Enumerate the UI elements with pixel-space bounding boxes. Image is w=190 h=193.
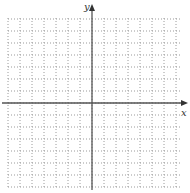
axes: x y <box>2 1 188 190</box>
coordinate-grid: x y <box>0 0 190 193</box>
x-axis-label: x <box>181 107 187 118</box>
y-axis-label: y <box>83 1 90 12</box>
y-axis-arrow-icon <box>89 4 95 11</box>
x-axis-arrow-icon <box>181 100 188 106</box>
